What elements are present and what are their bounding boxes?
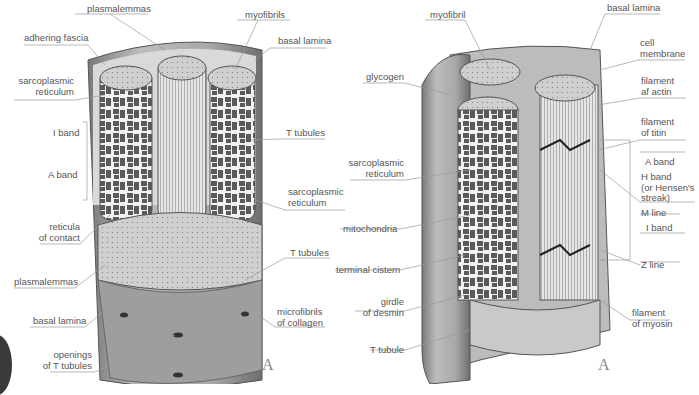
label-line-1: cell	[640, 37, 654, 48]
label-line-1: sarcoplasmic	[349, 157, 404, 168]
label-line-2: reticulum	[365, 168, 404, 179]
label-line-2: reticulum	[288, 197, 327, 208]
label-sarcoplasmic-reticulum: sarcoplasmic reticulum	[340, 158, 404, 179]
label-line-2: of collagen	[277, 317, 323, 328]
label-glycogen: glycogen	[366, 72, 404, 83]
label-a-band: A band	[48, 170, 78, 181]
label-line-1: filament	[641, 116, 674, 127]
label-i-band-right: I band	[646, 223, 672, 234]
label-line-1: sarcoplasmic	[19, 75, 74, 86]
label-t-tubule: T tubule	[370, 345, 404, 356]
label-sarcoplasmic-reticulum-left: sarcoplasmic reticulum	[10, 76, 74, 97]
label-filament-titin: filament of titin	[641, 117, 674, 138]
label-line-2: of desmin	[363, 307, 404, 318]
label-myofibrils: myofibrils	[245, 10, 285, 21]
label-line-2: af actin	[641, 86, 672, 97]
label-a-band-right: A band	[645, 157, 675, 168]
label-basal-lamina: basal lamina	[607, 3, 660, 14]
label-plasmalemmas-top: plasmalemmas	[87, 4, 151, 15]
label-line-1: H band	[641, 171, 672, 182]
label-m-line: M line	[641, 208, 666, 219]
label-myofibril: myofibril	[430, 10, 465, 21]
right-panel-letter: A	[598, 356, 610, 373]
label-line-2: of contact	[39, 232, 80, 243]
label-line-1: openings	[53, 349, 92, 360]
left-muscle-fiber	[88, 42, 262, 384]
label-basal-lamina-top: basal lamina	[278, 36, 331, 47]
label-girdle-of-desmin: girdle of desmin	[350, 297, 404, 318]
label-basal-lamina-bottom: basal lamina	[33, 316, 86, 327]
label-microfibrils-of-collagen: microfibrils of collagen	[277, 307, 323, 328]
label-mitochondria: mitochondria	[343, 224, 397, 235]
label-line-2: (or Hensen's	[641, 182, 695, 193]
label-z-line: Z line	[641, 260, 664, 271]
label-line-1: reticula	[49, 221, 80, 232]
label-reticula-of-contact: reticula of contact	[10, 222, 80, 243]
label-line-2: of myosin	[632, 318, 673, 329]
label-line-2: of titin	[641, 127, 666, 138]
left-panel-letter: A	[262, 356, 274, 373]
label-line-1: girdle	[381, 296, 404, 307]
label-line-2: of T tubules	[43, 360, 92, 371]
label-adhering-fascia: adhering fascia	[24, 33, 88, 44]
label-line-1: filament	[632, 307, 665, 318]
label-plasmalemmas-bottom: plasmalemmas	[14, 277, 78, 288]
label-cell-membrane: cell membrane	[640, 38, 685, 59]
label-filament-myosin: filament of myosin	[632, 308, 673, 329]
label-i-band: I band	[53, 128, 79, 139]
label-h-band: H band (or Hensen's streak)	[641, 172, 695, 204]
label-line-1: sarcoplasmic	[288, 186, 343, 197]
label-line-3: streak)	[641, 192, 670, 203]
label-terminal-cistern: terminal cistern	[336, 265, 400, 276]
label-sarcoplasmic-reticulum-right: sarcoplasmic reticulum	[288, 187, 343, 208]
label-t-tubules-lower: T tubules	[290, 248, 329, 259]
label-line-2: membrane	[640, 48, 685, 59]
label-line-1: filament	[641, 75, 674, 86]
label-filament-actin: filament af actin	[641, 76, 674, 97]
label-t-tubules-upper: T tubules	[286, 128, 325, 139]
label-line-1: microfibrils	[277, 306, 322, 317]
right-muscle-fiber	[422, 46, 610, 384]
label-openings-of-t-tubules: openings of T tubules	[30, 350, 92, 371]
label-line-2: reticulum	[35, 86, 74, 97]
